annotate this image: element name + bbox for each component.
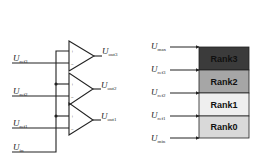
rank2-label: Rank2 xyxy=(210,77,237,87)
label-uout1: Uout1 xyxy=(101,111,117,122)
label-uin: Uin xyxy=(13,142,24,153)
rank0-label: Rank0 xyxy=(210,122,237,132)
rank-table: Rank3 Rank2 Rank1 Rank0 xyxy=(199,47,249,138)
label-uref1: Uref1 xyxy=(13,118,28,129)
rank3-label: Rank3 xyxy=(210,54,237,64)
minus-sign: − xyxy=(71,62,74,67)
minus-sign: − xyxy=(71,127,74,132)
rank1-label: Rank1 xyxy=(210,100,237,110)
comparator-2 xyxy=(69,73,93,105)
label-umin: Umin xyxy=(151,133,166,144)
label-uref2: Uref2 xyxy=(13,86,28,97)
plus-sign: + xyxy=(71,82,74,87)
minus-sign: − xyxy=(71,95,74,100)
junction-dot xyxy=(54,82,57,85)
label-uref2-level: Uref2 xyxy=(151,87,166,98)
label-umax: Umax xyxy=(151,41,167,52)
diagram-canvas: + − + − + − Uref3 Uref2 Uref1 Uin Uout3 … xyxy=(0,0,263,165)
label-uref3-level: Uref3 xyxy=(151,64,166,75)
label-uref1-level: Uref1 xyxy=(151,110,166,121)
label-uref3: Uref3 xyxy=(13,53,28,64)
plus-sign: + xyxy=(71,49,74,54)
label-uout3: Uout3 xyxy=(102,46,118,57)
level-arrows xyxy=(170,47,199,138)
label-uout2: Uout2 xyxy=(101,80,117,91)
junction-dot xyxy=(54,114,57,117)
uin-wire xyxy=(12,51,69,152)
plus-sign: + xyxy=(71,114,74,119)
